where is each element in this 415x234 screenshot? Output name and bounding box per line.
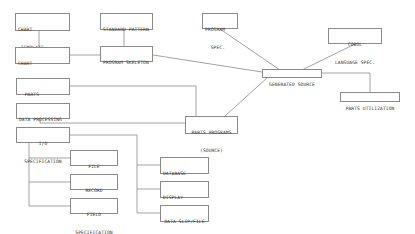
node-io-specification: I/O SPECIFICATION bbox=[16, 127, 70, 143]
node-label-line1: PARTS bbox=[19, 92, 67, 98]
node-label-line1: DATABASE bbox=[163, 171, 206, 177]
node-record-specification: RECORD SPECIFICATION bbox=[70, 174, 118, 190]
node-file-specification: FILE SPECIFICATION bbox=[70, 150, 118, 166]
node-label-line1: DISPLAY bbox=[163, 195, 206, 201]
node-label-line1: FILE bbox=[73, 164, 115, 170]
node-label-line2: SPEC. bbox=[205, 45, 235, 51]
node-generated-source: GENERATED SOURCE bbox=[262, 69, 322, 78]
node-label-line1: DATA SLIP/FILE bbox=[163, 219, 206, 225]
node-label-line1: CHART bbox=[18, 27, 67, 33]
node-label-line1: CHART bbox=[18, 61, 67, 67]
node-data-slip-file-definition: DATA SLIP/FILE DEFINITION bbox=[160, 205, 209, 222]
node-label-line1: GENERATED SOURCE bbox=[265, 82, 319, 88]
node-label-line2: SPECIFICATION bbox=[19, 159, 67, 165]
node-program-skeleton: PROGRAM SKELETON bbox=[100, 46, 153, 62]
node-label-line2: LANGUAGE SPEC. bbox=[331, 60, 379, 66]
node-display-definition: DISPLAY DEFINITION bbox=[160, 181, 209, 198]
node-parts-utilization: PARTS UTILIZATION bbox=[340, 92, 400, 102]
node-label-line1: I/O bbox=[19, 141, 67, 147]
node-parts-programs-source: PARTS PROGRAMS (SOURCE) bbox=[185, 116, 238, 134]
node-label-line2: SPECIFICATION bbox=[73, 230, 115, 234]
node-label-line1: PROGRAM bbox=[205, 27, 235, 33]
node-cobol-language-spec: COBOL LANGUAGE SPEC. bbox=[328, 28, 382, 44]
node-standard-pattern: STANDARD PATTERN bbox=[100, 13, 153, 30]
node-label-line1: PARTS UTILIZATION bbox=[343, 106, 397, 112]
node-data-processing-specification: DATA PROCESSING SPECIFICATION bbox=[16, 103, 70, 119]
node-field-specification: FIELD SPECIFICATION bbox=[70, 198, 118, 214]
node-label-line1: PARTS PROGRAMS bbox=[188, 130, 235, 136]
node-label-line1: DATA PROCESSING bbox=[19, 117, 67, 123]
node-label-line2: (SOURCE) bbox=[188, 148, 235, 154]
node-chart-specification: CHART SPECIFICATION bbox=[15, 47, 70, 64]
node-label-line1: COBOL bbox=[331, 42, 379, 48]
node-label-line1: PROGRAM SKELETON bbox=[103, 60, 150, 66]
node-program-spec: PROGRAM SPEC. bbox=[202, 13, 238, 29]
node-chart-template: CHART TEMPLATE bbox=[15, 13, 70, 31]
diagram-canvas: CHART TEMPLATE CHART SPECIFICATION STAND… bbox=[0, 0, 415, 234]
node-label-line1: FIELD bbox=[73, 212, 115, 218]
node-parts-specification: PARTS SPECIFICATION bbox=[16, 78, 70, 95]
node-label-line1: STANDARD PATTERN bbox=[103, 27, 150, 33]
node-label-line1: RECORD bbox=[73, 188, 115, 194]
node-database-definition: DATABASE DEFINITION bbox=[160, 157, 209, 174]
